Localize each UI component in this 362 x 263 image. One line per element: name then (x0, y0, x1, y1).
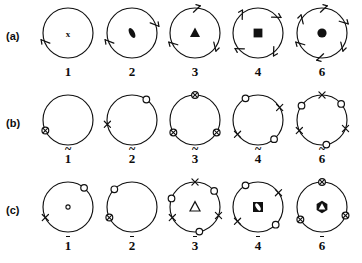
symmetry-cell: 2 (100, 2, 164, 86)
symmetry-cell: x 1 (36, 2, 100, 86)
figure-row-b: (b) 1~ 2~ 3~ 4~ 6~ (0, 87, 362, 175)
caption-overbar-accent (256, 236, 261, 237)
caption-tilde-accent: ~ (129, 146, 136, 152)
symmetry-diagram (163, 176, 227, 240)
cell-caption: 4~ (226, 151, 290, 167)
symmetry-diagram (36, 176, 100, 240)
figure-row-c: (c) 1 2 3 4 6 (0, 174, 362, 262)
caption-tilde-accent: ~ (319, 146, 326, 152)
cell-caption: 4 (226, 64, 290, 80)
cell-caption: 2~ (100, 151, 164, 167)
row-label-b: (b) (6, 117, 20, 129)
caption-text: 2 (129, 64, 136, 80)
cell-caption: 1~ (36, 151, 100, 167)
caption-text: 6~ (319, 151, 326, 167)
symmetry-cell: 1 (36, 176, 100, 260)
symmetry-axes-figure: (a) x 1 2 3 4 6 (b) 1~ 2~ (0, 0, 362, 263)
caption-overbar-accent (193, 236, 198, 237)
caption-text: 1 (65, 238, 72, 254)
cell-caption: 6 (290, 64, 354, 80)
caption-tilde-accent: ~ (65, 146, 72, 152)
caption-text: 6 (319, 238, 326, 254)
symmetry-diagram (100, 2, 164, 66)
caption-text: 4 (255, 64, 262, 80)
symmetry-cell: 4 (226, 2, 290, 86)
symmetry-diagram: x (36, 2, 100, 66)
caption-text: 4 (255, 238, 262, 254)
symmetry-diagram (226, 176, 290, 240)
row-label-a: (a) (6, 30, 19, 42)
caption-overbar-accent (320, 236, 325, 237)
cell-caption: 3 (163, 64, 227, 80)
caption-text: 3 (192, 238, 199, 254)
symmetry-diagram (163, 2, 227, 66)
symmetry-cell: 6~ (290, 89, 354, 173)
caption-text: 2~ (129, 151, 136, 167)
cell-caption: 3~ (163, 151, 227, 167)
symmetry-cell: 2 (100, 176, 164, 260)
symmetry-cell: 3 (163, 176, 227, 260)
symmetry-cell: 6 (290, 2, 354, 86)
symmetry-cell: 2~ (100, 89, 164, 173)
row-label-c: (c) (6, 204, 19, 216)
figure-row-a: (a) x 1 2 3 4 6 (0, 0, 362, 88)
cell-caption: 1 (36, 64, 100, 80)
caption-tilde-accent: ~ (255, 146, 262, 152)
caption-overbar-accent (66, 236, 71, 237)
symmetry-cell: 3~ (163, 89, 227, 173)
caption-text: 4~ (255, 151, 262, 167)
symmetry-diagram (290, 2, 354, 66)
cell-caption: 3 (163, 238, 227, 254)
cell-caption: 2 (100, 64, 164, 80)
caption-text: 2 (129, 238, 136, 254)
symmetry-diagram (100, 176, 164, 240)
cell-caption: 6~ (290, 151, 354, 167)
symmetry-diagram (290, 176, 354, 240)
caption-tilde-accent: ~ (192, 146, 199, 152)
cell-caption: 2 (100, 238, 164, 254)
caption-text: 6 (319, 64, 326, 80)
symmetry-cell: 6 (290, 176, 354, 260)
caption-text: 3~ (192, 151, 199, 167)
caption-text: 3 (192, 64, 199, 80)
symmetry-cell: 4 (226, 176, 290, 260)
cell-caption: 6 (290, 238, 354, 254)
caption-text: 1 (65, 64, 72, 80)
symmetry-diagram (226, 2, 290, 66)
svg-text:x: x (66, 29, 71, 39)
cell-caption: 4 (226, 238, 290, 254)
symmetry-cell: 3 (163, 2, 227, 86)
symmetry-cell: 1~ (36, 89, 100, 173)
cell-caption: 1 (36, 238, 100, 254)
caption-overbar-accent (130, 236, 135, 237)
symmetry-cell: 4~ (226, 89, 290, 173)
caption-text: 1~ (65, 151, 72, 167)
